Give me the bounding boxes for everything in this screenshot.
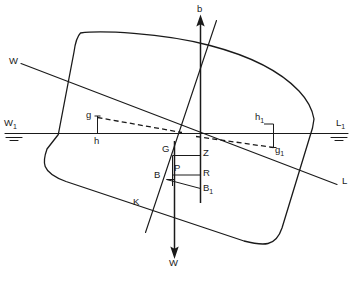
label-offset-h: h <box>94 136 99 146</box>
label-buoyancy-axis: b <box>197 4 202 14</box>
label-point-b: B <box>154 170 160 180</box>
label-waterline-l: L <box>342 176 347 186</box>
line-b-b1 <box>167 180 201 189</box>
label-waterline-l1: L1 <box>336 118 345 130</box>
label-offset-g: g <box>86 110 91 120</box>
label-waterline-l1-subscript: 1 <box>341 123 345 130</box>
stability-diagram-svg <box>0 0 358 281</box>
label-waterline-w1: W1 <box>4 118 17 130</box>
label-point-z: Z <box>203 148 209 158</box>
label-point-k: K <box>133 197 139 207</box>
label-offset-g1: g1 <box>275 145 284 157</box>
diagram-canvas: b W W L W1 L1 g h h1 g1 G Z P R B B1 K <box>0 0 358 281</box>
label-point-b1: B1 <box>203 183 213 195</box>
label-waterline-w: W <box>9 56 18 66</box>
label-offset-g1-subscript: 1 <box>280 150 284 157</box>
label-waterline-w1-subscript: 1 <box>13 123 17 130</box>
label-offset-h1: h1 <box>255 112 264 124</box>
label-offset-h1-subscript: 1 <box>260 117 264 124</box>
label-point-p: P <box>174 163 180 173</box>
label-point-r: R <box>203 168 210 178</box>
label-weight-arrow: W <box>169 258 178 268</box>
label-point-g: G <box>162 144 169 154</box>
ship-centerline <box>146 21 217 233</box>
label-waterline-w1-text: W <box>4 117 13 128</box>
label-point-b1-subscript: 1 <box>209 188 213 195</box>
